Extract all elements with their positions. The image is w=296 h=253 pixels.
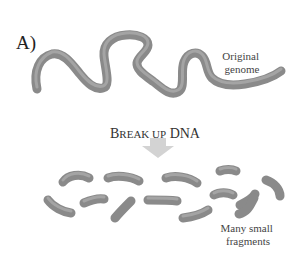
down-arrow-icon: [142, 138, 174, 158]
genome-label-line-1: Original: [222, 50, 259, 62]
fragments-label-line-2: fragments: [226, 235, 270, 247]
fragments-label-line-1: Many small: [221, 222, 273, 234]
genome-label-line-2: genome: [225, 63, 260, 75]
step-label-first: B: [110, 126, 119, 141]
panel-label: A): [16, 32, 36, 54]
fragment: [266, 180, 280, 196]
step-label-tail: DNA: [166, 126, 201, 141]
dna-fragments: [48, 168, 280, 219]
dna-fragmentation-diagram: A) Original genome BREAK UP DNA: [0, 0, 296, 253]
fragments-label: Many small fragments: [221, 222, 276, 247]
fragment: [115, 201, 131, 218]
fragment: [148, 200, 177, 201]
genome-label: Original genome: [222, 50, 261, 75]
